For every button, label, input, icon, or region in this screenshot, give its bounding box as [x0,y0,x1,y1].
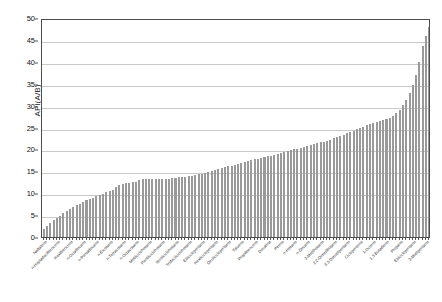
y-axis-tick-label: 20 [27,147,35,155]
bar [280,153,282,237]
x-axis-tick-mark [300,238,301,240]
bar [125,183,127,237]
x-axis-tick-mark [277,238,278,240]
bar [359,128,361,237]
x-axis-tick-mark [382,238,383,240]
bar [92,198,94,237]
bar [395,113,397,237]
x-axis-tick-mark [313,238,314,240]
x-axis-tick-mark [145,238,146,240]
bar [422,46,424,237]
bar [372,123,374,237]
x-axis-tick-mark [72,238,73,240]
bar [204,173,206,237]
x-axis-tick-mark [356,238,357,240]
x-axis-tick-mark [362,238,363,240]
x-axis-tick-mark [369,238,370,240]
bar [198,174,200,237]
x-axis-tick-mark [379,238,380,240]
x-axis-tick-mark [194,238,195,240]
x-axis-tick-mark [392,238,393,240]
y-axis-tick-label: 25 [27,125,35,133]
bar [122,184,124,237]
bar [221,168,223,237]
x-axis-tick-mark [428,238,429,240]
x-axis-tick-mark [353,238,354,240]
bar [247,161,249,237]
bar [257,159,259,237]
bar [415,75,417,237]
x-axis-tick-mark [234,238,235,240]
bar [214,170,216,237]
bar [303,147,305,237]
x-axis-tick-mark [79,238,80,240]
bar [399,110,401,237]
bar [356,129,358,237]
bar [102,194,104,237]
x-axis-tick-mark [128,238,129,240]
bar [161,179,163,237]
y-axis-tick-labels: 05101520253035404550 [14,14,38,242]
x-axis-tick-mark [316,238,317,240]
bar [128,183,130,237]
x-axis-tick-mark [92,238,93,240]
x-axis-tick-mark [66,238,67,240]
bar [85,200,87,237]
x-axis-tick-mark [204,238,205,240]
bar [405,100,407,237]
bar [118,185,120,237]
x-axis-tick-mark [290,238,291,240]
bar [56,218,58,237]
x-axis-tick-mark [49,238,50,240]
bar [142,179,144,237]
bar [109,191,111,237]
x-axis-tick-mark [62,238,63,240]
bar [244,162,246,237]
x-axis-tick-mark [310,238,311,240]
bar [148,179,150,237]
y-axis-tick-mark [35,128,38,129]
x-axis-tick-mark [59,238,60,240]
y-axis-tick-mark [35,172,38,173]
y-axis-tick-mark [35,84,38,85]
y-axis-tick-label: 30 [27,103,35,111]
y-axis-tick-label: 40 [27,59,35,67]
bar [382,120,384,237]
bar [207,172,209,237]
bar [326,141,328,237]
bar [43,229,45,237]
bar [346,133,348,237]
x-axis-tick-mark [273,238,274,240]
y-axis-tick-label: 10 [27,190,35,198]
y-axis-tick-label: 35 [27,81,35,89]
bar [425,36,427,237]
x-axis-tick-mark [138,238,139,240]
bar [66,211,68,237]
bar [168,179,170,237]
x-axis-tick-mark [405,238,406,240]
bar [389,118,391,237]
x-axis-tick-mark [250,238,251,240]
x-axis-tick-mark [211,238,212,240]
y-axis-tick-mark [35,194,38,195]
x-axis-tick-mark [287,238,288,240]
bar [343,135,345,237]
x-axis-tick-mark [224,238,225,240]
y-axis-tick-label: 15 [27,169,35,177]
bar [76,205,78,237]
bar [105,192,107,237]
bar [227,166,229,237]
x-axis-tick-mark [270,238,271,240]
bar [184,177,186,237]
bar-series [42,20,429,237]
x-axis-tick-mark [326,238,327,240]
bar [135,182,137,237]
bar [316,143,318,237]
bar [362,127,364,237]
bar [69,209,71,237]
x-axis-tick-mark [118,238,119,240]
bar [369,124,371,237]
bar [201,174,203,238]
bar [379,121,381,237]
y-axis-tick-mark [35,106,38,107]
